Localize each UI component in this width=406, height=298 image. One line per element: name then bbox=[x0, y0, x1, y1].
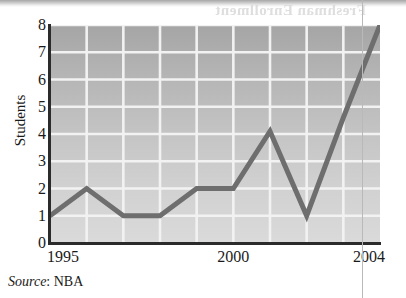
y-tick-3: 3 bbox=[38, 153, 46, 169]
source-value: NBA bbox=[54, 274, 84, 289]
y-tick-4: 4 bbox=[38, 126, 46, 142]
y-tick-6: 6 bbox=[38, 72, 46, 88]
source-label: Source bbox=[8, 274, 46, 289]
y-tick-7: 7 bbox=[38, 44, 46, 60]
plot-svg bbox=[50, 25, 380, 243]
x-tick-1995: 1995 bbox=[47, 248, 79, 266]
y-tick-5: 5 bbox=[38, 99, 46, 115]
y-tick-2: 2 bbox=[38, 181, 46, 197]
y-axis-line bbox=[48, 24, 51, 245]
plot-area bbox=[50, 25, 380, 243]
y-tick-1: 1 bbox=[38, 208, 46, 224]
source-separator: : bbox=[46, 274, 50, 289]
y-tick-8: 8 bbox=[38, 17, 46, 33]
y-tick-0: 0 bbox=[38, 235, 46, 251]
x-axis-line bbox=[48, 242, 381, 245]
y-axis-tick-labels: 012345678 bbox=[24, 19, 46, 247]
source-note: Source: NBA bbox=[8, 274, 83, 290]
line-chart: Students 012345678 199520002004 Source: … bbox=[0, 0, 406, 298]
data-series-line bbox=[50, 25, 380, 216]
x-tick-2000: 2000 bbox=[217, 248, 249, 266]
page-column-rule bbox=[362, 0, 363, 298]
x-tick-2004: 2004 bbox=[353, 248, 385, 266]
